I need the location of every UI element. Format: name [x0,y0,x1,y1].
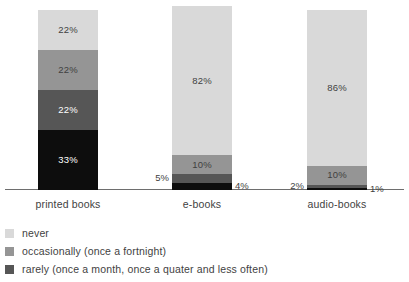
segment-value-label: 82% [172,76,232,86]
bar-e-books[interactable]: 82%10%5%4% [172,6,232,190]
segment-value-label: 22% [38,25,98,35]
bar-segment[interactable]: 22% [38,90,98,130]
segment-callout-label: 1% [370,184,384,194]
bar-stack: 86%10%2%1% [307,10,367,190]
segment-callout-label: 2% [290,182,304,192]
legend-item[interactable]: occasionally (once a fortnight) [5,242,405,260]
segment-value-label: 22% [38,105,98,115]
bar-audio-books[interactable]: 86%10%2%1% [307,10,367,190]
segment-value-label: 33% [38,155,98,165]
category-label-printed-books: printed books [8,198,128,210]
legend-label: occasionally (once a fortnight) [22,245,166,257]
legend-swatch-icon [5,265,14,274]
chart-legend: neveroccasionally (once a fortnight)rare… [5,224,405,278]
segment-value-label: 10% [307,171,367,181]
bar-segment[interactable]: 22% [38,50,98,90]
legend-label: rarely (once a month, once a quater and … [22,263,268,275]
segment-value-label: 10% [172,160,232,170]
bar-segment[interactable]: 82% [172,6,232,155]
bar-segment[interactable]: 86% [307,10,367,167]
legend-item[interactable]: rarely (once a month, once a quater and … [5,260,405,278]
category-label-audio-books: audio-books [277,198,397,210]
bar-segment[interactable]: 4% [172,183,232,190]
bar-printed-books[interactable]: 22%22%22%33% [38,10,98,190]
stacked-bar-chart: 22%22%22%33%82%10%5%4%86%10%2%1% printed… [0,0,409,282]
segment-value-label: 22% [38,65,98,75]
bar-stack: 22%22%22%33% [38,10,98,190]
bar-segment[interactable]: 10% [172,155,232,173]
plot-area: 22%22%22%33%82%10%5%4%86%10%2%1% [0,0,409,191]
segment-callout-label: 5% [155,173,169,183]
segment-callout-label: 4% [235,182,249,192]
legend-swatch-icon [5,229,14,238]
bar-segment[interactable]: 33% [38,130,98,190]
bar-segment[interactable]: 5% [172,174,232,183]
category-label-e-books: e-books [142,198,262,210]
bar-stack: 82%10%5%4% [172,6,232,190]
category-axis-labels: printed bookse-booksaudio-books [0,198,409,216]
bar-segment[interactable]: 10% [307,166,367,184]
legend-item[interactable]: never [5,224,405,242]
segment-value-label: 86% [307,83,367,93]
legend-swatch-icon [5,247,14,256]
bar-segment[interactable]: 1% [307,188,367,190]
bar-segment[interactable]: 22% [38,10,98,50]
legend-label: never [22,227,49,239]
